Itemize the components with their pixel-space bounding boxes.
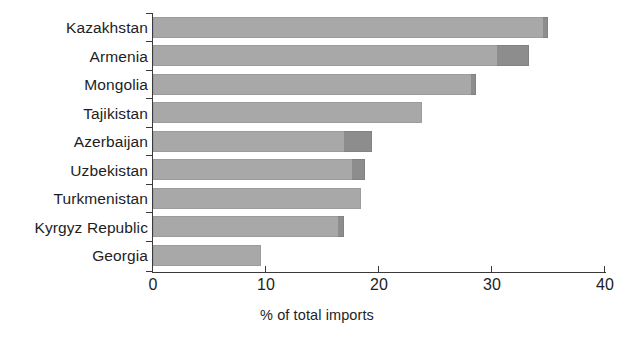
bar-mongolia[interactable] <box>153 74 476 95</box>
y-axis-tick-label: Georgia <box>0 248 148 264</box>
x-axis-tick <box>378 266 379 273</box>
bar-segment-primary <box>153 102 422 123</box>
x-axis-tick <box>152 266 153 273</box>
y-axis-tick <box>146 212 153 213</box>
bar-segment-primary <box>153 74 471 95</box>
y-axis-tick <box>146 241 153 242</box>
bar-uzbekistan[interactable] <box>153 159 365 180</box>
x-axis-tick <box>604 266 605 273</box>
bar-segment-secondary <box>338 216 344 237</box>
bar-segment-primary <box>153 159 352 180</box>
y-axis-tick <box>146 184 153 185</box>
y-axis-category-labels: Kazakhstan Armenia Mongolia Tajikistan A… <box>0 14 148 272</box>
x-axis-tick-label: 40 <box>596 277 614 293</box>
x-axis-tick-label: 20 <box>370 277 388 293</box>
bar-turkmenistan[interactable] <box>153 188 361 209</box>
bar-segment-secondary <box>352 159 366 180</box>
bar-segment-primary <box>153 216 338 237</box>
y-axis-tick-label: Kazakhstan <box>0 20 148 36</box>
y-axis-tick <box>146 41 153 42</box>
y-axis-tick-label: Uzbekistan <box>0 163 148 179</box>
x-axis-tick-label: 10 <box>257 277 275 293</box>
bar-segment-secondary <box>344 131 372 152</box>
y-axis-tick-label: Mongolia <box>0 77 148 93</box>
x-axis-tick <box>491 266 492 273</box>
bar-segment-primary <box>153 188 361 209</box>
bar-azerbaijan[interactable] <box>153 131 372 152</box>
bar-kyrgyz-republic[interactable] <box>153 216 344 237</box>
y-axis-tick <box>146 70 153 71</box>
x-axis-tick-label: 0 <box>149 277 158 293</box>
y-axis-tick-label: Armenia <box>0 49 148 65</box>
y-axis-tick-label: Kyrgyz Republic <box>0 220 148 236</box>
y-axis-tick <box>146 98 153 99</box>
bar-segment-primary <box>153 45 497 66</box>
bar-tajikistan[interactable] <box>153 102 422 123</box>
bar-segment-primary <box>153 131 344 152</box>
bar-segment-secondary <box>543 17 549 38</box>
y-axis-tick-label: Tajikistan <box>0 106 148 122</box>
y-axis-tick-label: Turkmenistan <box>0 191 148 207</box>
y-axis-tick <box>146 127 153 128</box>
x-axis-tick <box>265 266 266 273</box>
bar-segment-secondary <box>471 74 477 95</box>
bar-segment-primary <box>153 245 261 266</box>
plot-area <box>153 14 605 272</box>
bar-armenia[interactable] <box>153 45 529 66</box>
y-axis-tick <box>146 155 153 156</box>
y-axis-tick-label: Azerbaijan <box>0 134 148 150</box>
bar-georgia[interactable] <box>153 245 261 266</box>
bar-segment-secondary <box>497 45 530 66</box>
x-axis-title: % of total imports <box>0 308 634 323</box>
x-axis-tick-label: 30 <box>483 277 501 293</box>
bar-chart: Kazakhstan Armenia Mongolia Tajikistan A… <box>0 0 634 338</box>
bar-kazakhstan[interactable] <box>153 17 548 38</box>
y-axis-tick <box>146 13 153 14</box>
bar-segment-primary <box>153 17 543 38</box>
